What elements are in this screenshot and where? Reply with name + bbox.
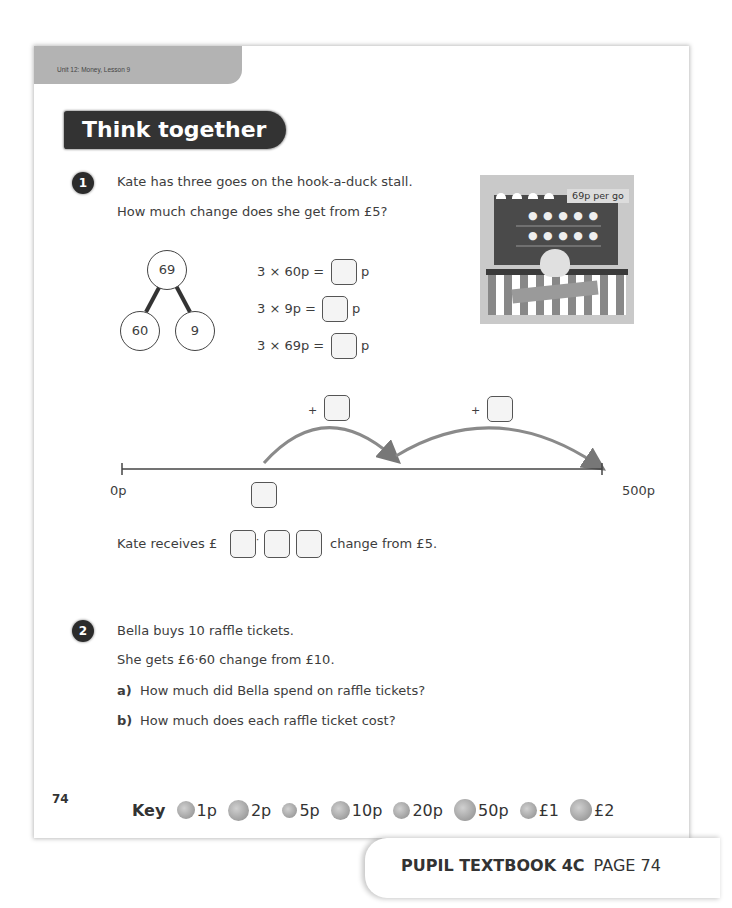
equation-2-expr: 3 × 9p = xyxy=(257,301,316,316)
book-page-label: PUPIL TEXTBOOK 4C PAGE 74 xyxy=(401,856,661,875)
equation-1-answer-box[interactable] xyxy=(331,259,357,285)
key-item-1-pound: £1 xyxy=(520,800,559,819)
coin-50p-icon xyxy=(454,799,476,821)
key-item-50p: 50p xyxy=(454,800,509,819)
book-page-tab: PUPIL TEXTBOOK 4C PAGE 74 xyxy=(365,838,720,898)
coin-key: Key 1p 2p 5p 10p 20p 50p £1 £2 xyxy=(132,799,614,821)
jump-arrow-2 xyxy=(396,428,596,464)
equation-1-expr: 3 × 60p = xyxy=(257,264,324,279)
equation-1-unit: p xyxy=(361,264,369,279)
book-label: PUPIL TEXTBOOK 4C xyxy=(401,856,585,875)
jump-arrow-1 xyxy=(264,428,392,463)
duck-row-icon: ● ● ● ● ● xyxy=(528,229,599,242)
question-2a-text: How much did Bella spend on raffle ticke… xyxy=(140,683,425,698)
shelf xyxy=(516,225,601,227)
coin-5p-icon xyxy=(282,803,297,818)
question-2-line-1: Bella buys 10 raffle tickets. xyxy=(117,623,294,638)
part-whole-part-1: 60 xyxy=(120,311,160,351)
page-number: 74 xyxy=(52,792,69,806)
pence-answer-box[interactable] xyxy=(296,530,322,558)
equation-2-answer-box[interactable] xyxy=(322,296,348,322)
unit-tab: Unit 12: Money, Lesson 9 xyxy=(34,46,242,84)
jump-1-plus: + xyxy=(308,404,317,417)
duck-row-icon: ● ● ● ● ● xyxy=(528,209,599,222)
key-label: Key xyxy=(132,801,165,820)
question-1-line-2: How much change does she get from £5? xyxy=(117,204,387,219)
equation-3-unit: p xyxy=(361,338,369,353)
key-item-1p: 1p xyxy=(177,800,217,819)
coin-20p-icon xyxy=(393,802,410,819)
hook-a-duck-stall-image: 69p per go ● ● ● ● ● ● ● ● ● ● xyxy=(480,175,634,324)
decimal-point: · xyxy=(256,534,259,545)
question-2a-letter: a) xyxy=(117,683,132,698)
question-1-badge: 1 xyxy=(72,172,94,194)
question-2-line-2: She gets £6·60 change from £10. xyxy=(117,652,335,667)
answer-line-prefix: Kate receives £ xyxy=(117,536,217,551)
page-label: PAGE 74 xyxy=(594,856,661,875)
answer-line-suffix: change from £5. xyxy=(330,536,437,551)
jump-2-plus: + xyxy=(471,404,480,417)
tens-pence-answer-box[interactable] xyxy=(264,530,290,558)
pounds-answer-box[interactable] xyxy=(230,530,256,558)
part-whole-part-2: 9 xyxy=(175,311,215,351)
key-item-10p: 10p xyxy=(331,800,383,819)
number-line-end-label: 500p xyxy=(622,483,655,498)
part-whole-whole: 69 xyxy=(147,250,187,290)
textbook-page: Unit 12: Money, Lesson 9 Think together … xyxy=(34,46,689,838)
question-2b-text: How much does each raffle ticket cost? xyxy=(140,713,396,728)
number-line-start-answer-box[interactable] xyxy=(251,482,277,508)
awning-scallop xyxy=(528,193,538,199)
duck-icon xyxy=(540,249,570,277)
shelf xyxy=(516,245,601,247)
awning-scallop xyxy=(512,193,522,199)
equation-3-expr: 3 × 69p = xyxy=(257,338,324,353)
coin-10p-icon xyxy=(331,801,350,820)
jump-2-answer-box[interactable] xyxy=(487,396,513,422)
equation-2-unit: p xyxy=(352,301,360,316)
coin-1p-icon xyxy=(177,801,195,819)
awning-scallop xyxy=(496,193,506,199)
jump-1-answer-box[interactable] xyxy=(324,395,350,421)
coin-2p-icon xyxy=(228,800,249,821)
key-item-5p: 5p xyxy=(282,800,319,819)
coin-1-pound-icon xyxy=(520,802,537,819)
awning-scallop xyxy=(544,193,554,199)
question-2-badge: 2 xyxy=(72,620,94,642)
number-line-start-label: 0p xyxy=(110,483,127,498)
equation-3-answer-box[interactable] xyxy=(331,333,357,359)
key-item-20p: 20p xyxy=(393,800,443,819)
unit-label: Unit 12: Money, Lesson 9 xyxy=(57,66,130,73)
coin-2-pound-icon xyxy=(570,799,592,821)
price-tag: 69p per go xyxy=(567,189,629,203)
question-1-line-1: Kate has three goes on the hook-a-duck s… xyxy=(117,174,413,189)
key-item-2p: 2p xyxy=(228,800,271,819)
number-line xyxy=(114,426,614,476)
key-item-2-pound: £2 xyxy=(570,800,614,819)
question-2b-letter: b) xyxy=(117,713,132,728)
section-title: Think together xyxy=(64,111,286,149)
